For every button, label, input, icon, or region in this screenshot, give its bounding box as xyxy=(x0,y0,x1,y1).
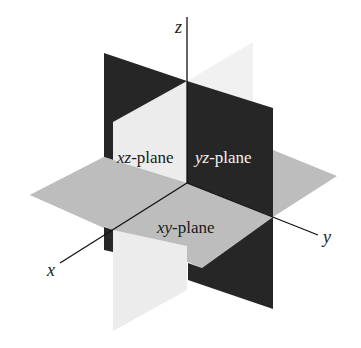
z-axis-label: z xyxy=(174,17,182,37)
xz-plane-lower xyxy=(113,230,187,331)
xy-plane-left-back xyxy=(30,157,104,228)
xy-plane-label: xy-plane xyxy=(156,218,215,237)
coordinate-planes-diagram: z x y xz-plane yz-plane xy-plane xyxy=(0,0,361,348)
y-axis-label: y xyxy=(321,227,331,247)
x-axis-label: x xyxy=(46,260,55,280)
xz-plane-label: xz-plane xyxy=(116,148,174,167)
xy-plane-right-back xyxy=(273,150,337,217)
yz-plane-label: yz-plane xyxy=(193,148,252,167)
